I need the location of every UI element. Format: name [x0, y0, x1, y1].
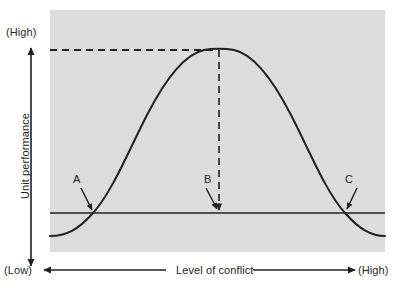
- conflict-performance-figure: (High) Unit performance (Low) Level of c…: [0, 0, 410, 299]
- y-axis-high-label: (High): [6, 26, 37, 38]
- x-axis-title: Level of conflict: [176, 264, 254, 276]
- point-b-label: B: [204, 173, 211, 185]
- figure-canvas: [0, 0, 410, 299]
- plot-area-background: [50, 10, 385, 252]
- x-axis-low-label: (Low): [4, 264, 32, 276]
- y-axis-title: Unit performance: [19, 101, 31, 211]
- point-a-label: A: [73, 173, 80, 185]
- x-axis-high-label: (High): [358, 264, 389, 276]
- point-c-label: C: [345, 173, 353, 185]
